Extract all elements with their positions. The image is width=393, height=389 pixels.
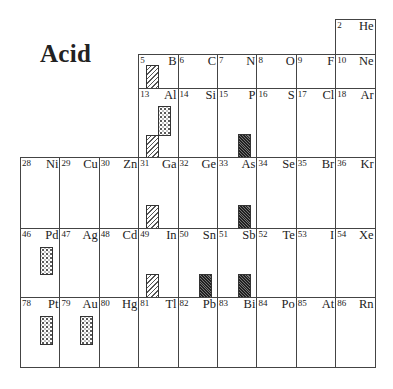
element-symbol: At: [322, 297, 335, 311]
element-symbol: Ga: [162, 157, 177, 171]
element-symbol: Ag: [83, 228, 98, 242]
atomic-number: 81: [140, 298, 149, 309]
element-cell-au: 79Au: [59, 297, 99, 368]
element-cell-sb: 51Sb: [217, 228, 257, 298]
element-symbol: Se: [282, 157, 295, 171]
element-symbol: Cu: [83, 157, 98, 171]
element-cell-he: 2He: [335, 19, 375, 55]
atomic-number: 28: [22, 158, 31, 169]
diagram-title: Acid: [40, 40, 91, 68]
element-symbol: Br: [322, 157, 335, 171]
atomic-number: 9: [298, 55, 303, 66]
atomic-number: 18: [337, 89, 346, 100]
dots-bar: [40, 247, 53, 275]
element-cell-bi: 83Bi: [217, 297, 257, 368]
element-symbol: Si: [206, 88, 216, 102]
element-cell-at: 85At: [296, 297, 336, 368]
element-symbol: Al: [164, 88, 177, 102]
atomic-number: 6: [180, 55, 185, 66]
dark-bar: [238, 205, 251, 229]
element-cell-c: 6C: [178, 54, 218, 89]
element-cell-xe: 54Xe: [335, 228, 375, 298]
atomic-number: 86: [337, 298, 346, 309]
element-symbol: C: [208, 54, 216, 68]
atomic-number: 7: [219, 55, 224, 66]
element-symbol: He: [359, 19, 374, 33]
element-symbol: Ni: [46, 157, 59, 171]
element-symbol: P: [248, 88, 255, 102]
atomic-number: 14: [180, 89, 189, 100]
element-cell-sn: 50Sn: [178, 228, 218, 298]
hatch-bar: [146, 65, 159, 89]
dots-bar: [40, 316, 53, 345]
dark-bar: [238, 274, 251, 298]
atomic-number: 82: [180, 298, 189, 309]
element-cell-se: 34Se: [256, 157, 296, 229]
element-symbol: Pb: [203, 297, 216, 311]
atomic-number: 8: [258, 55, 263, 66]
atomic-number: 47: [61, 229, 70, 240]
element-cell-p: 15P: [217, 88, 257, 158]
element-symbol: Xe: [359, 228, 374, 242]
element-cell-cd: 48Cd: [99, 228, 139, 298]
element-symbol: Ge: [201, 157, 216, 171]
atomic-number: 17: [298, 89, 307, 100]
element-cell-pt: 78Pt: [20, 297, 60, 368]
element-cell-te: 52Te: [256, 228, 296, 298]
element-symbol: Tl: [165, 297, 176, 311]
element-symbol: Rn: [359, 297, 374, 311]
atomic-number: 49: [140, 229, 149, 240]
element-cell-ar: 18Ar: [335, 88, 375, 158]
element-cell-ni: 28Ni: [20, 157, 60, 229]
element-symbol: Pt: [48, 297, 58, 311]
element-cell-pb: 82Pb: [178, 297, 218, 368]
element-symbol: Cl: [322, 88, 334, 102]
element-symbol: Zn: [123, 157, 137, 171]
element-cell-tl: 81Tl: [138, 297, 178, 368]
dark-bar: [199, 274, 212, 298]
atomic-number: 5: [140, 55, 145, 66]
element-cell-s: 16S: [256, 88, 296, 158]
element-symbol: I: [330, 228, 334, 242]
atomic-number: 16: [258, 89, 267, 100]
hatch-bar: [146, 205, 159, 229]
element-cell-al: 13Al: [138, 88, 178, 158]
element-cell-po: 84Po: [256, 297, 296, 368]
atomic-number: 85: [298, 298, 307, 309]
element-cell-b: 5B: [138, 54, 178, 89]
element-symbol: Sb: [242, 228, 255, 242]
element-symbol: As: [241, 157, 255, 171]
atomic-number: 29: [61, 158, 70, 169]
element-symbol: Po: [282, 297, 295, 311]
element-symbol: B: [168, 54, 176, 68]
element-symbol: Ne: [359, 54, 374, 68]
element-symbol: F: [327, 54, 334, 68]
dark-bar: [238, 134, 251, 158]
atomic-number: 10: [337, 55, 346, 66]
element-symbol: Pd: [45, 228, 58, 242]
atomic-number: 13: [140, 89, 149, 100]
element-symbol: Hg: [122, 297, 137, 311]
element-cell-br: 35Br: [296, 157, 336, 229]
element-cell-ag: 47Ag: [59, 228, 99, 298]
element-cell-rn: 86Rn: [335, 297, 375, 368]
element-symbol: Au: [83, 297, 98, 311]
atomic-number: 79: [61, 298, 70, 309]
element-symbol: Ar: [360, 88, 373, 102]
element-cell-pd: 46Pd: [20, 228, 60, 298]
atomic-number: 84: [258, 298, 267, 309]
atomic-number: 53: [298, 229, 307, 240]
atomic-number: 30: [101, 158, 110, 169]
hatch-bar: [146, 274, 159, 298]
atomic-number: 52: [258, 229, 267, 240]
element-symbol: Sn: [203, 228, 216, 242]
atomic-number: 36: [337, 158, 346, 169]
element-cell-cl: 17Cl: [296, 88, 336, 158]
element-cell-si: 14Si: [178, 88, 218, 158]
element-symbol: O: [286, 54, 295, 68]
atomic-number: 54: [337, 229, 346, 240]
element-symbol: S: [288, 88, 295, 102]
element-cell-cu: 29Cu: [59, 157, 99, 229]
element-symbol: In: [166, 228, 176, 242]
atomic-number: 35: [298, 158, 307, 169]
